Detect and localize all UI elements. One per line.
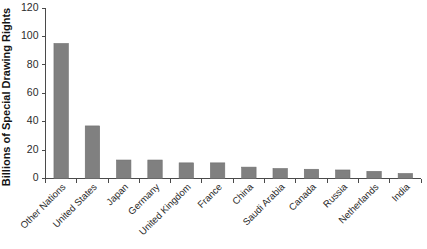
bar [54,44,68,179]
y-axis-title-label: Billions of Special Drawing Rights [0,8,12,186]
y-axis-title: Billions of Special Drawing Rights [0,8,12,186]
y-tick-label: 120 [21,1,39,13]
bar [117,160,131,178]
bar [148,160,162,178]
y-tick-label: 100 [21,29,39,41]
y-tick-label: 20 [27,143,39,155]
bar [273,169,287,179]
chart-canvas: Billions of Special Drawing Rights 02040… [0,0,427,249]
y-tick-label: 0 [33,171,39,183]
y-tick-label: 80 [27,58,39,70]
bar [179,163,193,179]
y-tick-label: 60 [27,86,39,98]
bar [304,169,318,178]
bar [398,174,412,179]
bar-chart: Billions of Special Drawing Rights 02040… [0,0,427,249]
y-tick-label: 40 [27,114,39,126]
bar [85,126,99,179]
bar [336,170,350,179]
bar [367,171,381,178]
bar [210,163,224,179]
bar [242,167,256,178]
